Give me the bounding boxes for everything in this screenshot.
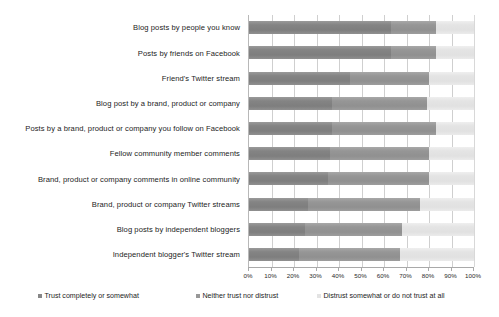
category-label: Fellow community member comments xyxy=(0,149,240,158)
bar-segment xyxy=(436,46,474,59)
x-axis-tick xyxy=(428,267,429,271)
x-axis-tick-label: 30% xyxy=(309,272,321,280)
legend-item[interactable]: Distrust somewhat or do not trust at all xyxy=(317,292,445,301)
x-axis-tick-label: 90% xyxy=(444,272,456,280)
x-axis-tick-label: 100% xyxy=(465,272,481,280)
x-axis-tick xyxy=(361,267,362,271)
bar-segment xyxy=(420,198,474,211)
legend-swatch-icon xyxy=(38,294,42,298)
bar-segment xyxy=(436,21,474,34)
bar-segment xyxy=(429,72,474,85)
bar-segment xyxy=(305,223,402,236)
x-axis-tick-label: 40% xyxy=(332,272,344,280)
x-axis-tick-label: 0% xyxy=(244,272,253,280)
bar-segment xyxy=(400,248,474,261)
x-axis: 0%10%20%30%40%50%60%70%80%90%100% xyxy=(248,267,474,283)
x-axis-tick-label: 80% xyxy=(422,272,434,280)
category-label: Blog posts by people you know xyxy=(0,23,240,32)
bar-segment xyxy=(436,122,474,135)
bar-series-group xyxy=(249,15,474,267)
bar-row xyxy=(249,72,474,85)
legend-item[interactable]: Neither trust nor distrust xyxy=(196,292,278,301)
category-label: Brand, product or company comments in on… xyxy=(0,175,240,184)
bar-segment xyxy=(249,223,305,236)
category-label: Independent blogger's Twitter stream xyxy=(0,250,240,259)
category-label: Blog posts by independent bloggers xyxy=(0,225,240,234)
bar-segment xyxy=(332,97,427,110)
bar-segment xyxy=(332,122,436,135)
bar-segment xyxy=(249,198,308,211)
x-axis-tick xyxy=(293,267,294,271)
x-axis-tick xyxy=(383,267,384,271)
category-label: Friend's Twitter stream xyxy=(0,74,240,83)
category-label: Posts by friends on Facebook xyxy=(0,49,240,58)
x-axis-tick-label: 20% xyxy=(287,272,299,280)
bar-segment xyxy=(249,147,330,160)
bar-row xyxy=(249,223,474,236)
legend-label: Neither trust nor distrust xyxy=(203,292,279,301)
bar-segment xyxy=(402,223,474,236)
plot-area xyxy=(248,15,475,267)
bar-segment xyxy=(328,172,429,185)
x-axis-tick xyxy=(248,267,249,271)
bar-row xyxy=(249,147,474,160)
plot-wrapper: Blog posts by people you knowPosts by fr… xyxy=(0,15,499,267)
bar-segment xyxy=(249,97,332,110)
bar-segment xyxy=(391,46,436,59)
bar-segment xyxy=(249,122,332,135)
bar-row xyxy=(249,198,474,211)
bar-segment xyxy=(391,21,436,34)
legend-item[interactable]: Trust completely or somewhat xyxy=(38,292,139,301)
legend-swatch-icon xyxy=(317,294,321,298)
category-axis-labels: Blog posts by people you knowPosts by fr… xyxy=(0,15,244,267)
legend-label: Trust completely or somewhat xyxy=(45,292,139,301)
chart-legend: Trust completely or somewhatNeither trus… xyxy=(0,289,499,303)
bar-segment xyxy=(249,248,299,261)
category-label: Brand, product or company Twitter stream… xyxy=(0,200,240,209)
bar-row xyxy=(249,46,474,59)
x-axis-tick-label: 10% xyxy=(264,272,276,280)
legend-label: Distrust somewhat or do not trust at all xyxy=(324,292,445,301)
bar-segment xyxy=(427,97,474,110)
bar-segment xyxy=(350,72,429,85)
category-label: Blog post by a brand, product or company xyxy=(0,99,240,108)
bar-segment xyxy=(330,147,429,160)
bar-segment xyxy=(249,72,350,85)
x-axis-tick xyxy=(473,267,474,271)
bar-segment xyxy=(249,21,391,34)
bar-row xyxy=(249,122,474,135)
x-axis-tick xyxy=(316,267,317,271)
x-axis-tick-label: 70% xyxy=(399,272,411,280)
x-axis-tick xyxy=(271,267,272,271)
bar-segment xyxy=(308,198,421,211)
x-axis-tick xyxy=(451,267,452,271)
category-label: Posts by a brand, product or company you… xyxy=(0,124,240,133)
bar-segment xyxy=(249,46,391,59)
stacked-bar-chart: Blog posts by people you knowPosts by fr… xyxy=(0,0,499,317)
bar-segment xyxy=(249,172,328,185)
x-axis-tick xyxy=(338,267,339,271)
bar-row xyxy=(249,97,474,110)
x-axis-tick-label: 50% xyxy=(354,272,366,280)
bar-segment xyxy=(429,147,474,160)
bar-row xyxy=(249,172,474,185)
x-axis-tick xyxy=(406,267,407,271)
bar-row xyxy=(249,21,474,34)
bar-segment xyxy=(429,172,474,185)
legend-swatch-icon xyxy=(196,294,200,298)
bar-row xyxy=(249,248,474,261)
bar-segment xyxy=(299,248,400,261)
x-axis-tick-label: 60% xyxy=(377,272,389,280)
